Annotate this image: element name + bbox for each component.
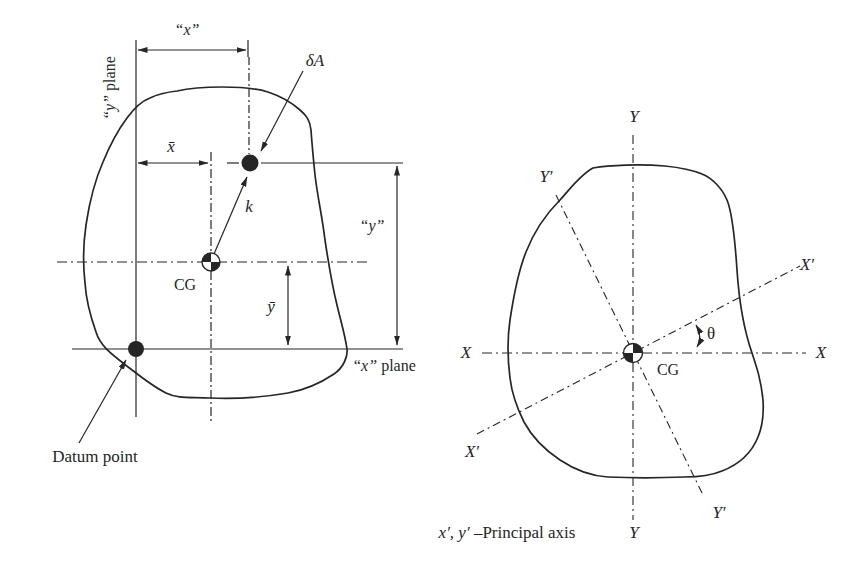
left-lamina-outline [84,87,348,398]
y-plane-label-var: “y” [101,95,118,120]
y-axis-bottom-label: Y [629,524,638,541]
x-prime-bottom-label: X′ [465,443,479,460]
diagram-svg [0,0,868,582]
datum-point-dot [128,341,144,357]
delta-a-label: δA [306,52,324,69]
figure-canvas: “y” plane “x” δA x̄ k “y” CG ȳ “x” plane… [0,0,868,582]
x-plane-label-rest: plane [377,357,416,374]
y-height-label: “y” [360,218,385,234]
right-lamina-outline [508,165,763,478]
k-label: k [245,198,253,215]
datum-leader [79,360,126,443]
x-plane-label: “x” plane [352,358,416,374]
x-width-label: “x” [175,22,200,38]
principal-axis-caption-var: x′, y′ [439,523,470,542]
y-prime-bottom-label: Y′ [712,504,725,521]
delta-a-dot [242,155,259,172]
k-arrow [214,177,247,254]
x-plane-label-var: “x” [352,357,377,374]
principal-axis-caption-rest: –Principal axis [470,523,576,542]
datum-point-label: Datum point [52,448,137,465]
y-prime-top-label: Y′ [539,168,552,185]
cg-right-label: CG [657,362,679,378]
theta-label: θ [707,325,715,342]
y-axis-top-label: Y [629,108,638,125]
cg-symbol-right [624,344,643,363]
y-plane-label-rest: plane [101,56,118,95]
cg-left-label: CG [174,277,196,293]
x-bar-label: x̄ [167,138,175,155]
x-axis-left-label: X [461,344,471,361]
y-plane-label: “y” plane [102,56,118,120]
x-axis-right-label: X [816,344,826,361]
principal-axis-caption: x′, y′ –Principal axis [439,524,576,541]
cg-symbol-left [202,253,220,271]
delta-a-leader [261,71,303,151]
theta-angle-arrow [696,325,700,347]
y-bar-label: ȳ [267,298,275,315]
x-prime-top-label: X′ [800,256,814,273]
